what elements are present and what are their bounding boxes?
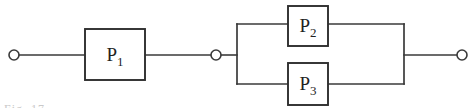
block-p2-base: P — [299, 15, 310, 36]
block-p3-subscript: 3 — [310, 83, 317, 98]
block-p2-subscript: 2 — [310, 25, 317, 40]
block-p1-subscript: 1 — [117, 54, 124, 69]
left-terminal-node — [9, 50, 19, 60]
block-p3-base: P — [299, 73, 310, 94]
reliability-block-diagram: P1 P2 P3 Fig. 17 — [0, 0, 474, 108]
middle-terminal-node — [211, 50, 221, 60]
block-p1-base: P — [106, 44, 117, 65]
rbd-canvas: P1 P2 P3 — [0, 0, 474, 108]
right-terminal-node — [457, 50, 467, 60]
